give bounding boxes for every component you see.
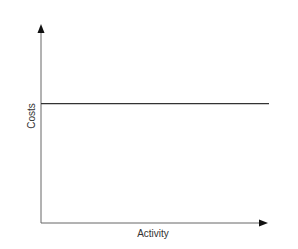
y-axis-arrow-icon <box>38 24 45 33</box>
x-axis-label: Activity <box>0 228 298 239</box>
chart-canvas <box>0 0 298 249</box>
x-axis-arrow-icon <box>259 220 268 227</box>
y-axis-label: Costs <box>26 103 37 129</box>
